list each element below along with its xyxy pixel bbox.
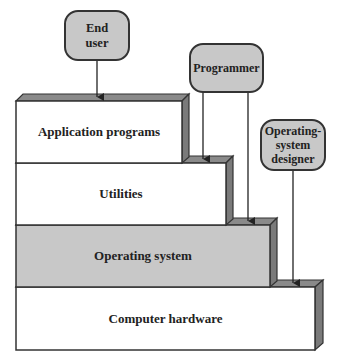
actor-programmer: Programmer bbox=[189, 43, 264, 93]
actor-end-user: End user bbox=[64, 10, 130, 61]
label-computer-hardware: Computer hardware bbox=[16, 311, 315, 326]
label-operating-system: Operating system bbox=[16, 248, 270, 263]
label-application-programs: Application programs bbox=[16, 124, 182, 139]
layer-diagram bbox=[0, 0, 337, 360]
label-utilities: Utilities bbox=[16, 186, 226, 201]
actor-os-designer: Operating-system designer bbox=[260, 119, 326, 171]
